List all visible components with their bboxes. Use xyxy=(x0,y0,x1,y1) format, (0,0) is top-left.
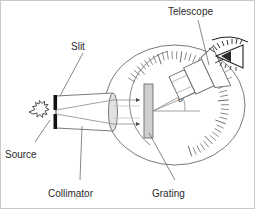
scale-tick xyxy=(167,52,168,60)
scale-tick xyxy=(205,136,213,144)
scale-tick xyxy=(193,55,196,62)
source-star-icon xyxy=(29,101,49,118)
scale-tick xyxy=(162,53,164,61)
collimator-label: Collimator xyxy=(48,188,94,199)
scale-tick xyxy=(220,95,228,96)
scale-tick xyxy=(220,113,228,114)
scale-tick xyxy=(210,135,216,140)
scale-tick xyxy=(218,100,229,101)
scale-tick xyxy=(219,90,227,92)
scale-tick xyxy=(219,117,227,119)
scale-tick xyxy=(197,145,201,152)
scale-tick xyxy=(215,128,222,132)
scale-tick xyxy=(189,53,191,61)
scale-tick xyxy=(221,109,229,110)
source-label: Source xyxy=(5,149,37,160)
grating-plate-icon xyxy=(144,84,153,138)
scale-tick xyxy=(212,132,218,137)
scale-tick xyxy=(204,141,209,147)
slit-label: Slit xyxy=(71,41,85,52)
spectrometer-diagram: θ xyxy=(0,0,256,210)
scale-tick xyxy=(217,125,224,128)
scale-tick xyxy=(180,51,181,62)
scale-tick xyxy=(158,54,162,64)
figure-canvas: θ xyxy=(0,0,256,210)
telescope-label: Telescope xyxy=(168,6,213,17)
grating-label: Grating xyxy=(152,188,185,199)
collimator-tube-icon xyxy=(56,93,118,131)
scale-tick xyxy=(185,52,187,60)
scale-tick xyxy=(193,147,196,154)
scale-tick xyxy=(188,146,191,156)
scale-tick xyxy=(200,143,204,150)
scale-tick xyxy=(215,120,225,124)
